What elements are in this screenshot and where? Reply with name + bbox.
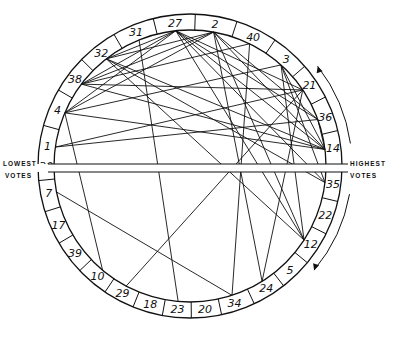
segment-divider bbox=[59, 235, 73, 243]
segment-label-12: 12 bbox=[304, 238, 318, 251]
segment-divider bbox=[82, 59, 93, 70]
segment-divider bbox=[195, 14, 196, 30]
segment-divider bbox=[311, 97, 325, 104]
segment-label-27: 27 bbox=[168, 17, 182, 30]
segment-label-1: 1 bbox=[44, 140, 51, 153]
segment-label-4: 4 bbox=[54, 104, 61, 117]
segment-label-34: 34 bbox=[227, 297, 241, 310]
segment-label-32: 32 bbox=[94, 47, 108, 60]
segment-label-36: 36 bbox=[318, 111, 332, 124]
segment-label-23: 23 bbox=[170, 303, 184, 316]
segment-label-40: 40 bbox=[246, 31, 260, 44]
segment-label-22: 22 bbox=[318, 209, 332, 222]
segment-divider bbox=[218, 299, 221, 315]
segment-label-18: 18 bbox=[143, 298, 157, 311]
segment-label-5: 5 bbox=[287, 264, 294, 277]
segment-label-24: 24 bbox=[259, 282, 273, 295]
segment-divider bbox=[133, 292, 139, 307]
segment-label-38: 38 bbox=[68, 73, 82, 86]
chord-14-38 bbox=[81, 84, 325, 149]
label-lowest: LOWEST bbox=[3, 160, 37, 167]
gap-band-fill bbox=[36, 164, 344, 172]
segment-divider bbox=[274, 273, 284, 286]
chord-7-34 bbox=[56, 192, 232, 295]
chord-14-32 bbox=[106, 59, 325, 150]
segment-divider bbox=[39, 179, 55, 181]
segment-label-35: 35 bbox=[326, 178, 340, 191]
segment-label-29: 29 bbox=[115, 287, 129, 300]
segment-label-31: 31 bbox=[129, 26, 143, 39]
segment-divider bbox=[114, 34, 122, 48]
vote-circle-diagram: 1438323127240321361435221252434202318291… bbox=[0, 0, 398, 339]
segment-label-3: 3 bbox=[283, 53, 290, 66]
label-lowest-votes: VOTES bbox=[5, 172, 32, 179]
segment-divider bbox=[312, 227, 326, 234]
segment-divider bbox=[247, 289, 254, 304]
segment-label-14: 14 bbox=[326, 142, 340, 155]
chord-2-32 bbox=[106, 32, 213, 59]
segment-divider bbox=[153, 19, 157, 35]
segment-divider bbox=[295, 253, 307, 263]
segment-divider bbox=[80, 260, 92, 271]
segment-divider bbox=[105, 279, 114, 292]
label-highest-votes: VOTES bbox=[350, 172, 377, 179]
segment-divider bbox=[293, 66, 305, 76]
segment-divider bbox=[232, 21, 237, 36]
segment-label-39: 39 bbox=[68, 247, 82, 260]
chord-32-12 bbox=[106, 59, 304, 240]
center-gap-band bbox=[36, 164, 348, 172]
segment-divider bbox=[44, 125, 59, 129]
chord-21-1 bbox=[55, 90, 302, 147]
arrow-down-head-icon bbox=[313, 263, 319, 270]
segment-divider bbox=[45, 207, 60, 212]
segment-divider bbox=[58, 90, 72, 98]
segment-label-20: 20 bbox=[198, 303, 212, 316]
segment-label-21: 21 bbox=[302, 79, 316, 92]
segment-divider bbox=[322, 131, 338, 135]
segment-label-17: 17 bbox=[51, 219, 65, 232]
arrow-down-arc bbox=[314, 194, 349, 270]
segment-label-10: 10 bbox=[90, 270, 104, 283]
segment-label-7: 7 bbox=[45, 187, 52, 200]
segment-label-2: 2 bbox=[212, 18, 219, 31]
segment-divider bbox=[162, 300, 165, 316]
label-highest: HIGHEST bbox=[350, 160, 386, 167]
segment-divider bbox=[266, 40, 275, 53]
segment-divider bbox=[322, 198, 338, 202]
